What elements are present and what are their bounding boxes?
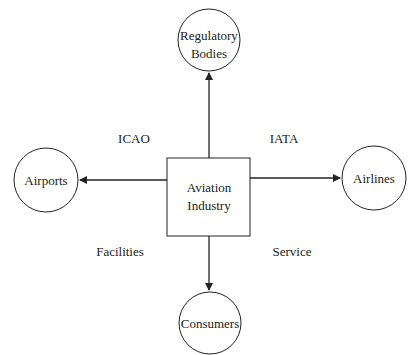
regulatory-label-line2: Bodies (191, 46, 227, 61)
airlines-label: Airlines (353, 171, 395, 186)
facilities-label: Facilities (96, 244, 144, 259)
center-label-line1: Aviation (187, 180, 232, 195)
airlines-node: Airlines (342, 146, 406, 210)
aviation-industry-diagram: Aviation Industry Regulatory Bodies Airp… (0, 0, 416, 355)
consumers-node: Consumers (179, 292, 241, 354)
icao-label: ICAO (118, 131, 150, 146)
airports-label: Airports (24, 173, 67, 188)
consumers-label: Consumers (181, 316, 240, 331)
aviation-industry-box: Aviation Industry (167, 158, 250, 236)
iata-label: IATA (270, 131, 299, 146)
center-label-line2: Industry (187, 198, 231, 213)
regulatory-bodies-node: Regulatory Bodies (178, 9, 240, 71)
airports-node: Airports (14, 148, 78, 212)
service-label: Service (273, 244, 312, 259)
regulatory-label-line1: Regulatory (180, 28, 238, 43)
